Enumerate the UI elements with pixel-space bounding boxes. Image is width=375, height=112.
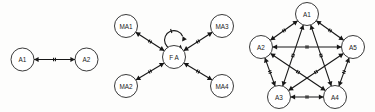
node-label: A2 [83,56,91,63]
node-MA3[interactable]: MA3 [211,15,234,38]
edge-tick-mark [292,54,295,55]
edge-line [136,63,164,80]
edge-tick-mark [291,56,294,57]
node-label: A3 [275,94,283,101]
edge-F A-MA4[interactable] [184,63,212,80]
edge-tick-mark [319,54,322,55]
edge-A2-A3[interactable] [264,58,276,86]
node-label: A1 [303,11,311,18]
node-FA[interactable]: F A [163,46,186,69]
arrow-head-forward [270,36,275,41]
node-label: A1 [19,56,27,63]
star-federated-graph: F AMA1MA2MA3MA4 [115,15,234,98]
arrow-head-forward [337,44,342,49]
arrow-head-backward [34,57,39,62]
node-label: MA3 [215,23,229,30]
arrow-head-backward [292,21,297,26]
edge-A4-A5[interactable] [338,58,350,86]
edge-line [270,21,297,41]
edge-A1-A2[interactable] [34,57,75,62]
graph-diagram-svg: A1A2F AMA1MA2MA3MA4A1A2A5A3A4 [0,0,375,112]
arrow-head-forward [338,36,343,41]
edge-line [283,25,304,86]
five-agent-complete-graph: A1A2A5A3A4 [250,3,365,109]
node-A2[interactable]: A2 [75,48,98,71]
edge-F A-MA3[interactable] [184,32,213,51]
two-agent-graph-edges [34,57,75,62]
arrow-head-backward [273,44,278,49]
node-label: MA4 [215,83,229,90]
node-A5[interactable]: A5 [342,36,365,59]
arrow-head-backward [316,21,321,26]
edge-A1-A3[interactable] [282,25,305,86]
edge-line [136,32,165,51]
edge-MA1-F A[interactable] [136,32,165,51]
node-MA4[interactable]: MA4 [211,75,234,98]
node-label: MA2 [119,83,133,90]
node-MA2[interactable]: MA2 [115,75,138,98]
edge-A1-A2[interactable] [270,21,297,41]
node-A4[interactable]: A4 [324,86,347,109]
arrow-head-backward [291,94,296,99]
arrow-head-forward [319,94,324,99]
arrow-head-forward [70,57,75,62]
node-label: MA1 [119,23,133,30]
figure-canvas: A1A2F AMA1MA2MA3MA4A1A2A5A3A4 [0,0,375,112]
edge-line [316,21,343,41]
edge-A1-A4[interactable] [310,25,333,86]
edge-A1-A5[interactable] [316,21,343,41]
node-A1[interactable]: A1 [11,48,34,71]
edge-tick-mark [342,72,345,73]
node-label: A2 [257,44,265,51]
edge-A3-A4[interactable] [291,94,324,99]
node-label: A4 [331,94,339,101]
edge-MA2-F A[interactable] [136,63,164,80]
node-MA1[interactable]: MA1 [115,15,138,38]
node-A3[interactable]: A3 [268,86,291,109]
edge-line [184,32,213,51]
arrow-head-forward [182,36,187,41]
node-label: F A [169,54,179,61]
two-agent-graph: A1A2 [11,48,98,71]
edge-tick-mark [320,56,323,57]
node-A1[interactable]: A1 [296,3,319,26]
edge-tick-mark [268,71,271,72]
edge-A2-A5[interactable] [273,44,342,49]
node-A2[interactable]: A2 [250,36,273,59]
edge-tick-mark [171,29,172,33]
edge-tick-mark [269,72,272,73]
edge-line [311,25,332,86]
node-label: A5 [349,44,357,51]
edge-tick-mark [343,71,346,72]
edge-line [184,63,212,80]
